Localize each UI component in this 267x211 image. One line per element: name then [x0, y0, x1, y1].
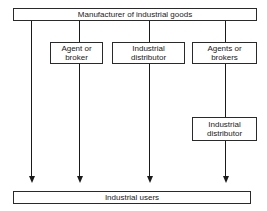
secondary-industrial-distributor-label: Industrial distributor [207, 120, 242, 139]
channel-2-arrow-icon [77, 176, 83, 183]
channel-2-line-bottom [79, 64, 80, 177]
channel-1-arrow-icon [29, 176, 35, 183]
industrial-users-label: Industrial users [105, 193, 159, 203]
channel-3-line-top [149, 21, 150, 42]
channel-4-line-bottom [225, 141, 226, 177]
agent-or-broker-label: Agent or broker [61, 44, 91, 63]
agents-or-brokers-box: Agents or brokers [192, 42, 257, 64]
channel-3-arrow-icon [147, 176, 153, 183]
channel-4-line-top [225, 21, 226, 42]
agent-or-broker-box: Agent or broker [50, 42, 103, 64]
manufacturer-box: Manufacturer of industrial goods [13, 8, 257, 21]
channel-2-line-top [79, 21, 80, 42]
channel-1-line [31, 21, 32, 177]
channel-3-line-bottom [149, 64, 150, 177]
manufacturer-label: Manufacturer of industrial goods [78, 10, 192, 20]
channel-4-line-middle [225, 64, 226, 117]
industrial-distributor-label: Industrial distributor [131, 44, 166, 63]
secondary-industrial-distributor-box: Industrial distributor [192, 117, 257, 141]
industrial-distributor-box: Industrial distributor [112, 42, 185, 64]
channel-4-arrow-icon [223, 176, 229, 183]
agents-or-brokers-label: Agents or brokers [207, 44, 241, 63]
industrial-users-box: Industrial users [13, 191, 251, 204]
